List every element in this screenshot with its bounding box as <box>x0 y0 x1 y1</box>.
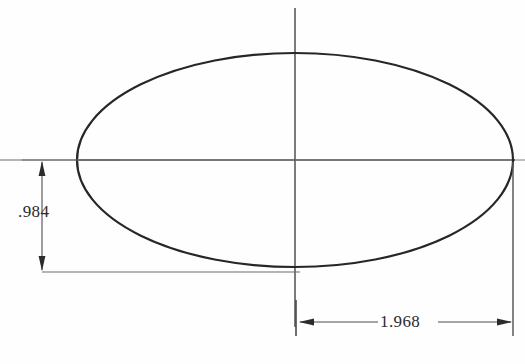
engineering-drawing-canvas <box>0 0 525 364</box>
vertical-dimension-label: .984 <box>18 202 49 222</box>
horizontal-dimension-label: 1.968 <box>380 312 420 332</box>
